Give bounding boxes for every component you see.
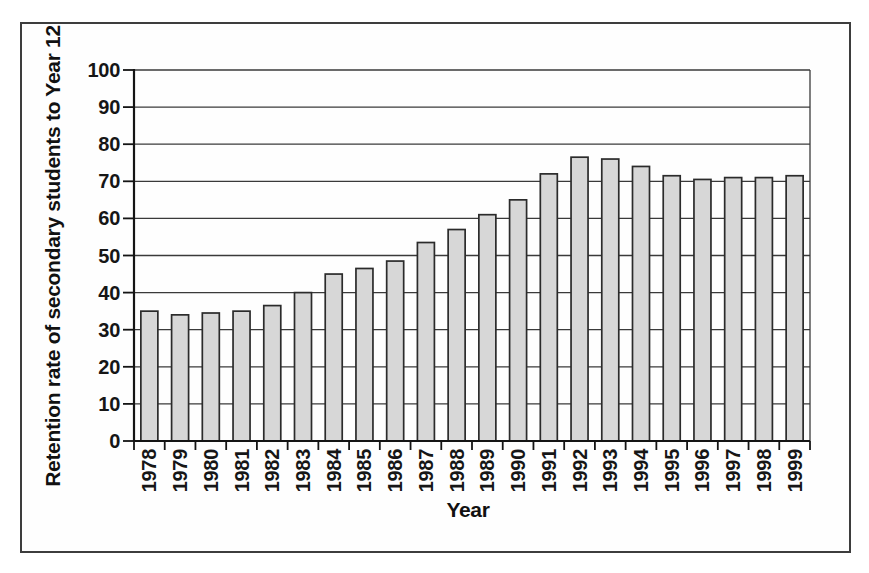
x-tick-label: 1986 (384, 449, 406, 492)
y-tick-label: 40 (98, 282, 120, 304)
x-tick-label: 1978 (138, 449, 160, 492)
y-tick-label: 60 (98, 207, 120, 229)
y-tick-label: 50 (98, 245, 120, 267)
bar (202, 313, 219, 441)
x-tick-label: 1985 (353, 449, 375, 492)
y-tick-label: 20 (98, 356, 120, 378)
y-tick-label: 30 (98, 319, 120, 341)
x-tick-label: 1998 (753, 449, 775, 492)
bar (510, 200, 527, 441)
y-tick-label: 70 (98, 170, 120, 192)
x-tick-label: 1991 (538, 449, 560, 492)
bar (295, 293, 312, 441)
x-tick-label: 1981 (231, 449, 253, 492)
x-tick-label: 1982 (261, 449, 283, 492)
x-tick-label: 1999 (784, 449, 806, 492)
bar (141, 311, 158, 441)
x-tick-label: 1989 (476, 449, 498, 492)
x-tick-label: 1988 (446, 449, 468, 492)
y-tick-label: 10 (98, 393, 120, 415)
bar (448, 230, 465, 441)
x-tick-label: 1993 (599, 449, 621, 492)
bar (755, 178, 772, 441)
bar (571, 157, 588, 441)
bar (356, 268, 373, 441)
bar (264, 306, 281, 441)
bar (172, 315, 189, 441)
x-tick-label: 1980 (200, 449, 222, 492)
x-tick-label: 1983 (292, 449, 314, 492)
bar (786, 176, 803, 441)
bar (602, 159, 619, 441)
y-tick-label: 80 (98, 133, 120, 155)
x-tick-label: 1994 (630, 448, 652, 492)
y-tick-label: 90 (98, 96, 120, 118)
bar (233, 311, 250, 441)
bar (387, 261, 404, 441)
x-tick-label: 1995 (661, 449, 683, 492)
x-axis-title: Year (446, 498, 489, 521)
bar (325, 274, 342, 441)
chart-figure: 0102030405060708090100197819791980198119… (0, 0, 869, 573)
y-tick-label: 0 (109, 430, 120, 452)
x-tick-label: 1996 (691, 449, 713, 492)
bar (417, 243, 434, 441)
bar (663, 176, 680, 441)
x-tick-label: 1990 (507, 449, 529, 492)
bar (633, 166, 650, 441)
x-tick-label: 1997 (722, 449, 744, 492)
bar (694, 179, 711, 441)
bars-group (141, 157, 803, 441)
bar (479, 215, 496, 441)
x-tick-label: 1992 (569, 449, 591, 492)
bar (725, 178, 742, 441)
x-tick-label: 1984 (323, 448, 345, 492)
y-tick-label: 100 (88, 59, 121, 81)
bar (540, 174, 557, 441)
x-tick-label: 1987 (415, 449, 437, 492)
x-tick-label: 1979 (169, 449, 191, 492)
y-axis-title: Retention rate of secondary students to … (41, 25, 64, 487)
bar-chart: 0102030405060708090100197819791980198119… (0, 0, 869, 573)
